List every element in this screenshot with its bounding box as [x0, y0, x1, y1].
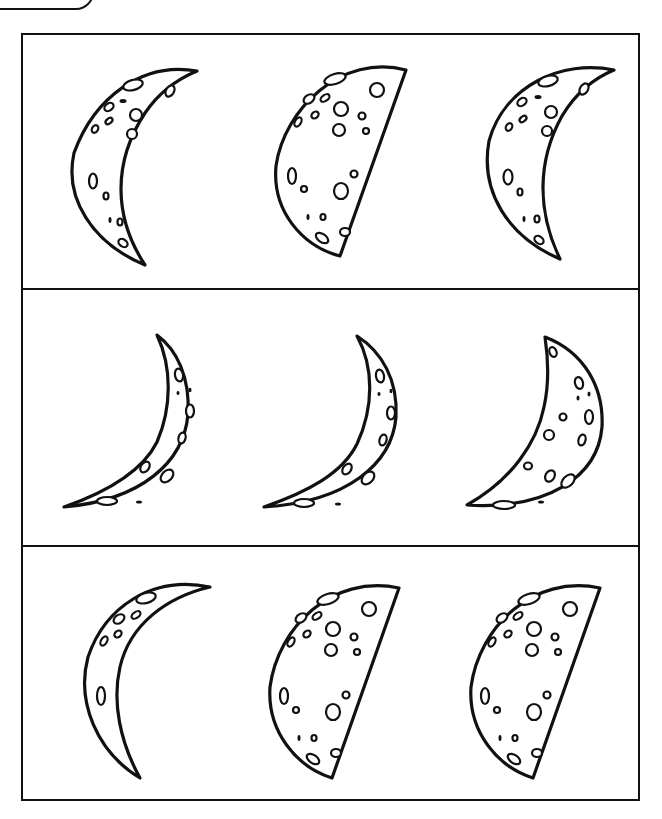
half-moon-icon	[268, 547, 418, 777]
moon-row-1	[23, 35, 638, 290]
header-tab	[0, 0, 94, 10]
thin-crescent-moon-icon	[263, 290, 423, 520]
moon-cell-1-1	[68, 35, 208, 288]
moon-cell-3-3	[468, 547, 618, 801]
half-moon-icon	[468, 547, 618, 777]
half-moon-icon	[273, 35, 423, 265]
moon-cell-1-3	[483, 35, 623, 288]
waxing-crescent-moon-icon	[68, 35, 208, 265]
crescent-moon-icon	[463, 290, 633, 520]
thin-crescent-moon-icon	[63, 290, 223, 520]
moon-row-3	[23, 547, 638, 801]
moon-cell-2-2	[263, 290, 423, 545]
moon-row-2	[23, 290, 638, 547]
moon-cell-3-1	[73, 547, 223, 801]
waxing-crescent-moon-icon	[483, 35, 623, 265]
narrow-crescent-moon-icon	[73, 547, 223, 777]
moon-cell-2-1	[63, 290, 223, 545]
moon-cell-2-3	[463, 290, 633, 545]
moon-cell-3-2	[268, 547, 418, 801]
moon-cell-1-2	[273, 35, 423, 288]
worksheet-frame	[21, 33, 640, 801]
worksheet-title	[240, 0, 440, 4]
